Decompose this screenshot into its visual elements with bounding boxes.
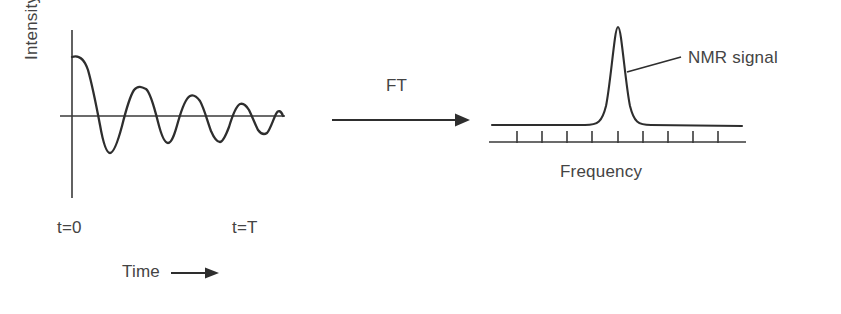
t-zero-label: t=0 xyxy=(57,218,82,238)
ft-arrow-head xyxy=(455,114,470,127)
time-domain-panel xyxy=(60,30,285,198)
time-axis-arrow-group xyxy=(171,268,219,279)
fid-curve xyxy=(72,56,283,153)
nmr-ft-figure: Intensity t=0 t=T Time FT NMR signal Fre… xyxy=(0,0,841,314)
nmr-signal-annotation-label: NMR signal xyxy=(688,48,778,68)
time-axis-arrow-head xyxy=(205,268,219,279)
time-axis-label: Time xyxy=(122,262,160,282)
nmr-spectrum-trace xyxy=(492,27,742,126)
nmr-signal-leader-line xyxy=(627,57,681,72)
t-end-label: t=T xyxy=(232,218,258,238)
intensity-axis-label: Intensity xyxy=(22,0,42,60)
frequency-domain-panel xyxy=(489,27,746,143)
fourier-transform-label: FT xyxy=(386,76,407,96)
ft-arrow-group xyxy=(332,114,470,127)
frequency-axis-label: Frequency xyxy=(560,162,642,182)
